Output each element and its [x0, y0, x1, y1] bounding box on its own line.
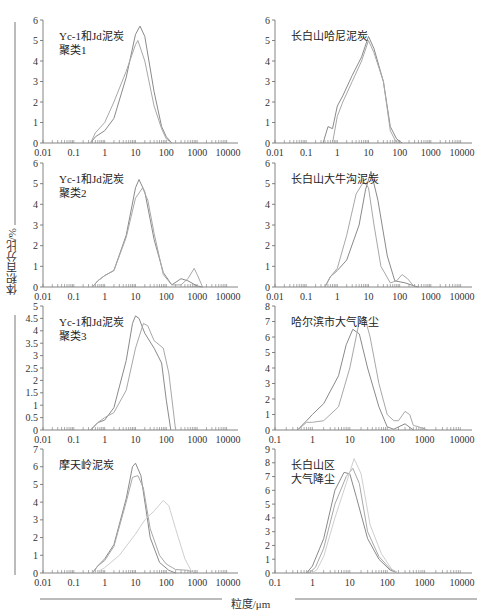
y-tick-label: 2 — [265, 540, 270, 551]
x-tick-label: 10 — [131, 147, 141, 158]
x-tick-label: 1000 — [415, 434, 435, 445]
y-tick-label: 3 — [265, 526, 270, 537]
series-line-curve-b — [333, 41, 397, 144]
x-tick-label: 1 — [310, 434, 315, 445]
x-tick-label: 100 — [392, 147, 407, 158]
x-tick-label: 100 — [380, 434, 395, 445]
y-tick-label: 3 — [33, 350, 38, 361]
y-tick-label: 2 — [265, 394, 270, 405]
y-tick-label: 1 — [265, 261, 270, 272]
chart-panel-row3-right: 0123456780.1110100100010000哈尔滨市大气降尘 — [265, 301, 475, 446]
x-tick-label: 10 — [364, 291, 374, 302]
y-tick-label: 1 — [33, 400, 38, 411]
chart-panel-top-left: 01234560.010.1110100100010000Yc-1和Jd泥炭聚类… — [33, 15, 241, 159]
series-line-curve-a — [92, 463, 175, 573]
y-tick-label: 7 — [265, 471, 270, 482]
x-tick-label: 10000 — [216, 434, 241, 445]
x-tick-label: 10 — [345, 577, 355, 588]
y-tick-label: 4 — [265, 363, 270, 374]
x-tick-label: 0.1 — [300, 147, 313, 158]
series-line-curve-b — [92, 476, 194, 573]
panel-title: 哈尔滨市大气降尘 — [291, 315, 379, 328]
x-tick-label: 1000 — [421, 147, 441, 158]
y-tick-label: 5 — [33, 301, 38, 312]
x-tick-label: 1000 — [187, 291, 207, 302]
x-tick-label: 0.1 — [68, 291, 81, 302]
y-tick-label: 8 — [265, 301, 270, 312]
y-tick-label: 2 — [265, 97, 270, 108]
y-tick-label: 4 — [265, 56, 270, 67]
y-tick-label: 6 — [33, 15, 38, 26]
x-tick-label: 0.1 — [68, 434, 81, 445]
y-tick-label: 3 — [33, 220, 38, 231]
y-tick-label: 4 — [33, 199, 38, 210]
y-tick-label: 2 — [265, 240, 270, 251]
y-tick-label: 6 — [265, 485, 270, 496]
x-tick-label: 100 — [159, 577, 174, 588]
y-tick-label: 3 — [265, 220, 270, 231]
y-tick-label: 2 — [33, 240, 38, 251]
y-tick-label: 1 — [33, 261, 38, 272]
series-line-curve-a — [298, 329, 414, 430]
y-tick-label: 2 — [33, 97, 38, 108]
chart-panel-bottom-left: 012345670.010.1110100100010000摩天岭泥炭 — [33, 444, 241, 589]
panel-title: 长白山大牛沟泥炭 — [291, 172, 379, 185]
x-tick-label: 1 — [102, 147, 107, 158]
x-tick-label: 0.1 — [269, 434, 282, 445]
y-tick-label: 6 — [265, 15, 270, 26]
y-tick-label: 3 — [265, 76, 270, 87]
y-tick-label: 1 — [33, 117, 38, 128]
y-tick-label: 1 — [265, 117, 270, 128]
chart-panel-row2-left: 01234560.010.1110100100010000Yc-1和Jd泥炭聚类… — [33, 158, 241, 303]
x-tick-label: 1 — [102, 291, 107, 302]
series-line-curve-b — [92, 188, 202, 287]
y-tick-label: 4.5 — [26, 313, 39, 324]
y-tick-label: 5 — [265, 178, 270, 189]
y-tick-label: 1 — [265, 409, 270, 420]
x-tick-label: 10000 — [216, 147, 241, 158]
y-tick-label: 7 — [265, 316, 270, 327]
panel-title: Yc-1和Jd泥炭 — [59, 30, 124, 42]
series-line-curve-a — [92, 180, 202, 288]
chart-panel-row2-right: 01234560.010.1110100100010000长白山大牛沟泥炭 — [265, 158, 475, 303]
panel-title: 摩天岭泥炭 — [59, 458, 114, 471]
x-tick-label: 10000 — [450, 434, 475, 445]
y-tick-label: 4 — [265, 512, 270, 523]
series-line-curve-a — [91, 316, 171, 430]
y-tick-label: 5 — [265, 35, 270, 46]
y-tick-label: 6 — [265, 332, 270, 343]
x-tick-label: 0.01 — [266, 147, 284, 158]
chart-panel-row3-left: 00.511.522.533.544.550.010.1110100100010… — [26, 301, 241, 446]
x-tick-label: 0.01 — [34, 147, 52, 158]
x-tick-label: 10000 — [216, 291, 241, 302]
y-tick-label: 5 — [33, 479, 38, 490]
x-tick-label: 0.1 — [68, 147, 81, 158]
x-tick-label: 1000 — [187, 147, 207, 158]
x-tick-label: 1000 — [415, 577, 435, 588]
y-tick-label: 3.5 — [26, 338, 39, 349]
x-tick-label: 1 — [335, 147, 340, 158]
y-tick-label: 5 — [33, 35, 38, 46]
panel-title: 大气降尘 — [291, 472, 335, 485]
y-tick-label: 5 — [265, 347, 270, 358]
x-tick-label: 100 — [159, 434, 174, 445]
x-tick-label: 10 — [131, 291, 141, 302]
panel-title: Yc-1和Jd泥炭 — [59, 316, 124, 328]
series-line-curve-b — [91, 41, 172, 144]
y-tick-label: 0.5 — [26, 412, 39, 423]
y-tick-label: 4 — [265, 199, 270, 210]
x-tick-label: 10000 — [216, 577, 241, 588]
y-tick-label: 5 — [265, 499, 270, 510]
x-tick-label: 1000 — [421, 291, 441, 302]
y-tick-label: 2 — [33, 375, 38, 386]
x-tick-label: 100 — [159, 291, 174, 302]
y-tick-label: 8 — [265, 457, 270, 468]
x-tick-label: 1000 — [187, 434, 207, 445]
y-tick-label: 5 — [33, 178, 38, 189]
series-line-curve-b — [298, 317, 428, 430]
x-tick-label: 0.1 — [68, 577, 81, 588]
x-tick-label: 0.1 — [269, 577, 282, 588]
panel-title: 聚类1 — [59, 43, 87, 56]
x-tick-label: 10000 — [450, 291, 475, 302]
x-tick-label: 1 — [102, 434, 107, 445]
